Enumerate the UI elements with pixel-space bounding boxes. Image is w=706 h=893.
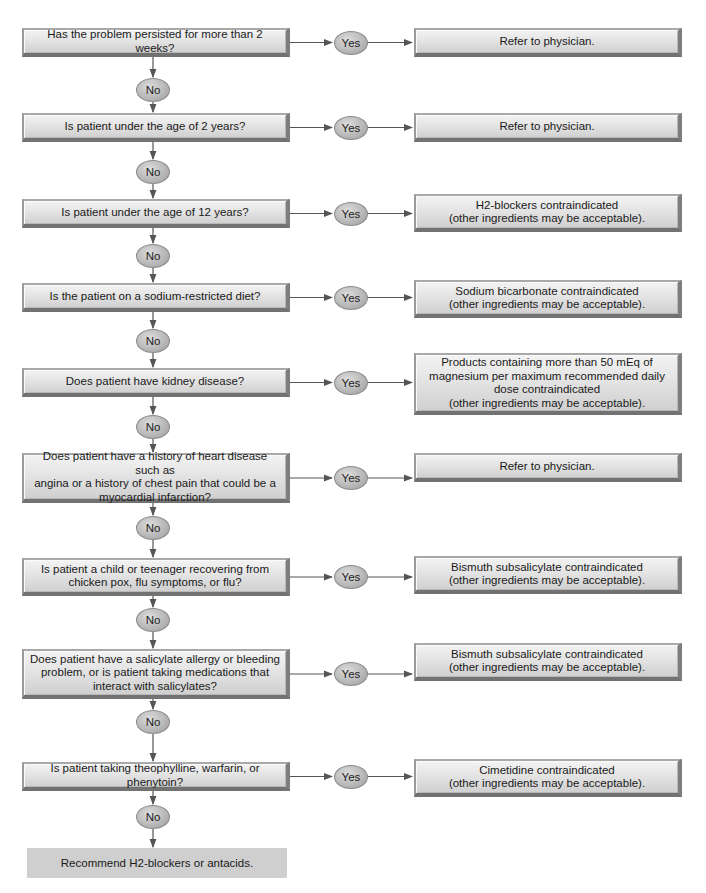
- answer-box: Refer to physician.: [414, 453, 682, 482]
- yes-node: Yes: [334, 286, 368, 310]
- question-box: Does patient have a history of heart dis…: [22, 453, 290, 503]
- yes-node: Yes: [334, 765, 368, 789]
- question-box: Does patient have kidney disease?: [22, 368, 290, 397]
- question-box: Is patient a child or teenager recoverin…: [22, 558, 290, 596]
- no-node: No: [136, 415, 170, 439]
- yes-node: Yes: [334, 565, 368, 589]
- no-node: No: [136, 78, 170, 102]
- question-box: Is the patient on a sodium-restricted di…: [22, 283, 290, 312]
- question-box: Has the problem persisted for more than …: [22, 28, 290, 57]
- yes-node: Yes: [334, 31, 368, 55]
- answer-box: Bismuth subsalicylate contraindicated(ot…: [414, 643, 682, 681]
- answer-box: Refer to physician.: [414, 28, 682, 57]
- yes-node: Yes: [334, 371, 368, 395]
- answer-box: Products containing more than 50 mEq ofm…: [414, 353, 682, 415]
- yes-node: Yes: [334, 116, 368, 140]
- answer-box: Sodium bicarbonate contraindicated(other…: [414, 280, 682, 318]
- yes-node: Yes: [334, 202, 368, 226]
- answer-box: Refer to physician.: [414, 113, 682, 142]
- question-box: Is patient taking theophylline, warfarin…: [22, 762, 290, 791]
- no-node: No: [136, 160, 170, 184]
- question-box: Does patient have a salicylate allergy o…: [22, 649, 290, 699]
- no-node: No: [136, 329, 170, 353]
- no-node: No: [136, 710, 170, 734]
- answer-box: H2-blockers contraindicated(other ingred…: [414, 194, 682, 232]
- no-node: No: [136, 805, 170, 829]
- no-node: No: [136, 608, 170, 632]
- answer-box: Cimetidine contraindicated(other ingredi…: [414, 759, 682, 797]
- question-box: Is patient under the age of 12 years?: [22, 199, 290, 228]
- no-node: No: [136, 244, 170, 268]
- final-recommendation: Recommend H2-blockers or antacids.: [27, 848, 287, 878]
- yes-node: Yes: [334, 662, 368, 686]
- question-box: Is patient under the age of 2 years?: [22, 113, 290, 142]
- no-node: No: [136, 516, 170, 540]
- yes-node: Yes: [334, 466, 368, 490]
- answer-box: Bismuth subsalicylate contraindicated(ot…: [414, 556, 682, 594]
